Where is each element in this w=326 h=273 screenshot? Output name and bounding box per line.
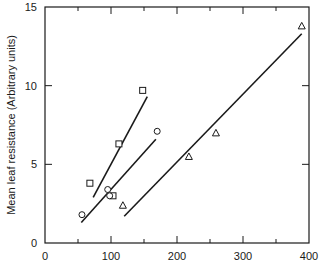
chart: 0100200300400 051015 Mean leaf resistanc… [0,0,326,273]
x-tick-label: 100 [102,250,120,262]
y-axis-title: Mean leaf resistance (Arbitrary units) [5,35,17,215]
y-tick-label: 10 [25,80,37,92]
circle-marker-icon [154,128,160,134]
triangle-marker-icon [185,153,192,160]
x-tick-label: 0 [42,250,48,262]
plot-border [45,7,309,243]
x-tick-label: 300 [234,250,252,262]
y-tick-label: 15 [25,1,37,13]
triangle-marker-icon [298,22,305,29]
y-tick-label: 5 [31,158,37,170]
square-marker-icon [116,141,122,147]
y-tick-labels: 051015 [25,1,37,249]
circle-marker-icon [107,193,113,199]
x-tick-label: 200 [168,250,186,262]
axis-ticks [45,7,309,243]
circle-marker-icon [105,187,111,193]
square-marker-icon [140,87,146,93]
square-marker-icon [87,180,93,186]
triangle-marker-icon [119,202,126,209]
triangle-marker-icon [212,129,219,136]
y-tick-label: 0 [31,237,37,249]
x-tick-labels: 0100200300400 [42,250,318,262]
plot-frame [45,7,309,243]
circle-marker-icon [79,212,85,218]
triangles-fit-line [124,34,302,217]
x-tick-label: 400 [300,250,318,262]
